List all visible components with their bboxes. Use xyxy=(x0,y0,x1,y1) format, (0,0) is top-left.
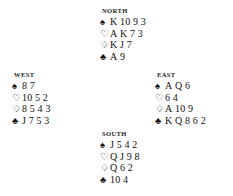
spade-icon: ♠ xyxy=(12,81,21,93)
cards-south-clubs: 104 xyxy=(109,174,128,186)
suit-row-north-diamonds: ♢ KJ7 xyxy=(100,39,146,51)
suit-row-south-spades: ♠ J542 xyxy=(100,139,140,151)
cards-north-diamonds: KJ7 xyxy=(109,39,132,51)
cards-east-clubs: KQ862 xyxy=(164,115,206,127)
hand-label-north: NORTH xyxy=(102,7,146,15)
club-icon: ♣ xyxy=(100,175,109,187)
spade-icon: ♠ xyxy=(100,140,109,152)
cards-north-spades: K1093 xyxy=(109,16,146,28)
cards-west-clubs: J753 xyxy=(21,115,49,127)
heart-icon: ♡ xyxy=(155,93,164,105)
cards-south-spades: J542 xyxy=(109,139,137,151)
hand-label-east: EAST xyxy=(157,71,206,79)
spade-icon: ♠ xyxy=(100,17,109,29)
cards-west-diamonds: 8543 xyxy=(21,103,51,115)
spade-icon: ♠ xyxy=(155,81,164,93)
heart-icon: ♡ xyxy=(100,29,109,41)
diamond-icon: ♢ xyxy=(155,104,164,116)
suit-row-west-hearts: ♡ 1052 xyxy=(12,92,51,104)
suit-row-north-spades: ♠ K1093 xyxy=(100,16,146,28)
hand-east: EAST ♠ AQ6 ♡ 64 ♢ A109 ♣ KQ862 xyxy=(155,71,206,126)
hand-west: WEST ♠ 87 ♡ 1052 ♢ 8543 ♣ J753 xyxy=(12,71,51,126)
suit-row-south-hearts: ♡ QJ98 xyxy=(100,151,140,163)
suit-row-south-diamonds: ♢ Q62 xyxy=(100,162,140,174)
suit-row-west-clubs: ♣ J753 xyxy=(12,115,51,127)
suit-row-east-clubs: ♣ KQ862 xyxy=(155,115,206,127)
cards-east-diamonds: A109 xyxy=(164,103,193,115)
diamond-icon: ♢ xyxy=(12,104,21,116)
suit-row-east-hearts: ♡ 64 xyxy=(155,92,206,104)
suit-row-north-clubs: ♣ A9 xyxy=(100,51,146,63)
suit-row-east-diamonds: ♢ A109 xyxy=(155,103,206,115)
hand-label-west: WEST xyxy=(14,71,51,79)
suit-row-north-hearts: ♡ AK73 xyxy=(100,28,146,40)
cards-east-spades: AQ6 xyxy=(164,80,190,92)
hand-label-south: SOUTH xyxy=(102,130,140,138)
cards-north-clubs: A9 xyxy=(109,51,125,63)
cards-south-diamonds: Q62 xyxy=(109,162,133,174)
heart-icon: ♡ xyxy=(100,152,109,164)
cards-east-hearts: 64 xyxy=(164,92,178,104)
club-icon: ♣ xyxy=(155,116,164,128)
suit-row-west-spades: ♠ 87 xyxy=(12,80,51,92)
hand-north: NORTH ♠ K1093 ♡ AK73 ♢ KJ7 ♣ A9 xyxy=(100,7,146,62)
heart-icon: ♡ xyxy=(12,93,21,105)
club-icon: ♣ xyxy=(12,116,21,128)
cards-north-hearts: AK73 xyxy=(109,28,143,40)
hand-south: SOUTH ♠ J542 ♡ QJ98 ♢ Q62 ♣ 104 xyxy=(100,130,140,185)
diamond-icon: ♢ xyxy=(100,163,109,175)
cards-west-hearts: 1052 xyxy=(21,92,48,104)
suit-row-south-clubs: ♣ 104 xyxy=(100,174,140,186)
suit-row-west-diamonds: ♢ 8543 xyxy=(12,103,51,115)
diamond-icon: ♢ xyxy=(100,40,109,52)
suit-row-east-spades: ♠ AQ6 xyxy=(155,80,206,92)
cards-west-spades: 87 xyxy=(21,80,35,92)
bridge-deal-diagram: NORTH ♠ K1093 ♡ AK73 ♢ KJ7 ♣ A9 WEST ♠ 8… xyxy=(0,0,233,196)
cards-south-hearts: QJ98 xyxy=(109,151,140,163)
club-icon: ♣ xyxy=(100,52,109,64)
